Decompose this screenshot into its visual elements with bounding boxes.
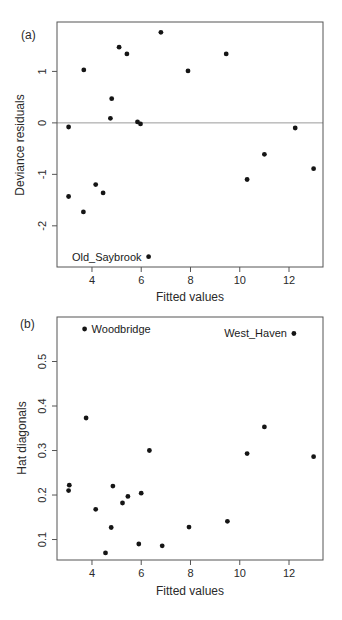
data-point [186,69,191,74]
y-tick-label: 1 [36,68,48,74]
data-point [126,494,131,499]
data-point [262,152,267,157]
x-tick-label: 4 [89,567,95,579]
data-point [292,331,297,336]
data-point [225,519,230,524]
data-point [66,125,71,130]
data-point [160,543,165,548]
data-point [93,182,98,187]
x-tick-label: 8 [187,274,193,286]
panel-b-xlabel: Fitted values [156,584,224,598]
data-point [108,116,113,121]
panel-a-plot: 4681012-2-101Old_Saybrook [36,22,323,286]
x-tick-label: 10 [234,274,246,286]
data-point [66,194,71,199]
data-point [109,525,114,530]
data-point [109,96,114,101]
diagnostic-plots-figure: (a) Deviance residuals Fitted values 468… [0,0,342,620]
data-point [101,191,106,196]
figure-svg: (a) Deviance residuals Fitted values 468… [0,0,342,620]
data-point [117,45,122,50]
data-point [84,416,89,421]
point-annotation: Old_Saybrook [72,251,142,263]
y-tick-label: 0 [36,120,48,126]
data-point [293,126,298,131]
panel-b-ylabel: Hat diagonals [15,401,29,474]
data-point [311,166,316,171]
data-point [125,52,130,57]
y-tick-label: 0.5 [36,354,48,369]
x-tick-label: 10 [234,567,246,579]
data-point [66,488,71,493]
data-point [120,501,125,506]
data-point [224,52,229,57]
panel-a-ylabel: Deviance residuals [13,94,27,195]
x-tick-label: 12 [283,567,295,579]
x-tick-label: 12 [283,274,295,286]
x-tick-label: 6 [138,274,144,286]
y-tick-label: -1 [36,169,48,179]
panel-a-xlabel: Fitted values [156,290,224,304]
data-point [245,451,250,456]
data-point [82,327,87,332]
data-point [138,122,143,127]
data-point [136,542,141,547]
data-point [262,425,267,430]
data-point [81,68,86,73]
data-point [146,254,151,259]
data-point [103,551,108,556]
x-tick-label: 8 [187,567,193,579]
data-point [159,30,164,35]
point-annotation: Woodbridge [92,323,151,335]
data-point [187,525,192,530]
data-point [93,507,98,512]
panel-b-tag: (b) [20,317,35,331]
panel-b-plot: 46810120.10.20.30.40.5WoodbridgeWest_Hav… [36,317,323,579]
y-tick-label: -2 [36,221,48,231]
x-tick-label: 4 [89,274,95,286]
data-point [81,210,86,215]
data-point [245,177,250,182]
x-tick-label: 6 [138,567,144,579]
plot-frame [57,22,323,267]
y-tick-label: 0.1 [36,532,48,547]
data-point [111,484,116,489]
y-tick-label: 0.2 [36,487,48,502]
y-tick-label: 0.4 [36,398,48,413]
panel-a-tag: (a) [21,28,36,42]
point-annotation: West_Haven [224,327,287,339]
y-tick-label: 0.3 [36,443,48,458]
plot-frame [57,317,323,560]
data-point [67,483,72,488]
data-point [139,491,144,496]
data-point [147,448,152,453]
data-point [311,454,316,459]
